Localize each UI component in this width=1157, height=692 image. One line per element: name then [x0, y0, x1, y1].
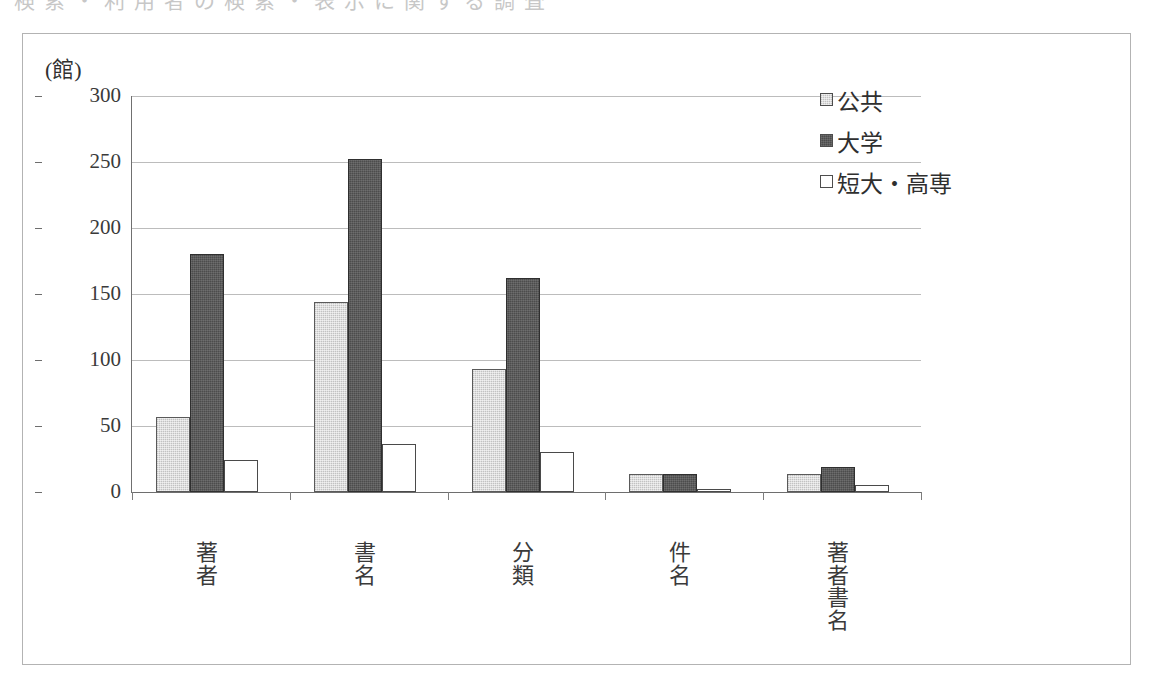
y-axis-tick-mark	[35, 360, 42, 361]
y-axis-tick-label: 150	[49, 281, 121, 306]
legend-item: 公共	[820, 79, 1010, 120]
bar	[540, 452, 574, 492]
x-axis-category-label: 著 者	[192, 542, 222, 587]
bar	[224, 460, 258, 492]
bar	[629, 474, 663, 492]
axis-baseline	[132, 492, 921, 493]
legend-item-label: 公共	[837, 83, 883, 117]
y-axis-tick-mark	[35, 492, 42, 493]
x-axis-category-label: 著 者 書 名	[823, 542, 853, 633]
x-axis-tick-mark	[921, 492, 922, 500]
bar	[382, 444, 416, 492]
gridline	[132, 96, 921, 97]
y-axis-unit-label: (館)	[45, 51, 82, 83]
y-axis-tick-label: 100	[49, 347, 121, 372]
gridline	[132, 162, 921, 163]
chart-figure-frame: (館) 050100150200250300 著 者書 名分 類件 名著 者 書…	[22, 33, 1131, 665]
bar	[697, 489, 731, 492]
bar	[156, 417, 190, 492]
y-axis-tick-label: 200	[49, 215, 121, 240]
x-axis-category-label: 分 類	[508, 542, 538, 587]
x-axis-tick-mark	[448, 492, 449, 500]
y-axis-tick-mark	[35, 426, 42, 427]
bar	[314, 302, 348, 492]
chart-legend: 公共大学短大・高専	[820, 79, 1010, 202]
x-axis-tick-mark	[605, 492, 606, 500]
legend-item-label: 短大・高専	[837, 165, 952, 199]
dark-gray-square-icon	[820, 134, 833, 147]
bar	[472, 369, 506, 492]
legend-item: 短大・高専	[820, 161, 1010, 202]
y-axis-tick-mark	[35, 228, 42, 229]
white-square-icon	[820, 175, 833, 188]
bar	[348, 159, 382, 492]
bar	[506, 278, 540, 492]
y-axis-tick-label: 300	[49, 83, 121, 108]
bar	[190, 254, 224, 492]
y-axis-tick-label: 50	[49, 413, 121, 438]
x-axis-tick-mark	[763, 492, 764, 500]
x-axis-tick-mark	[132, 492, 133, 500]
y-axis-tick-label: 0	[49, 479, 121, 504]
y-axis-tick-mark	[35, 162, 42, 163]
legend-item-label: 大学	[837, 124, 883, 158]
bar	[821, 467, 855, 492]
y-axis-tick-mark	[35, 294, 42, 295]
x-axis-category-label: 件 名	[665, 542, 695, 587]
gridline	[132, 228, 921, 229]
plot-area	[132, 96, 921, 492]
light-gray-square-icon	[820, 93, 833, 106]
bar	[855, 485, 889, 492]
x-axis-category-label: 書 名	[350, 542, 380, 587]
scan-artifact-label: 検索・利用者の検索・表示に関する調査	[14, 0, 554, 14]
y-axis-tick-label: 250	[49, 149, 121, 174]
y-axis-tick-mark	[35, 96, 42, 97]
legend-item: 大学	[820, 120, 1010, 161]
y-axis-tick-labels: 050100150200250300	[41, 96, 121, 492]
x-axis-tick-mark	[290, 492, 291, 500]
bar	[787, 474, 821, 492]
bar	[663, 474, 697, 492]
scan-artifact-text: 検索・利用者の検索・表示に関する調査	[0, 0, 1157, 14]
